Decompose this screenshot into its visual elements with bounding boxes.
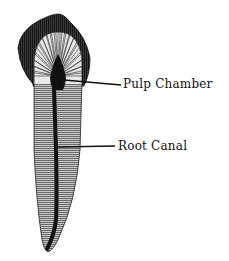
pulp-chamber-label: Pulp Chamber <box>123 78 213 90</box>
root-canal-leader <box>58 146 115 147</box>
tooth-diagram: Pulp Chamber Root Canal <box>0 0 229 261</box>
root-canal-label: Root Canal <box>118 140 187 152</box>
tooth-illustration <box>0 0 229 261</box>
